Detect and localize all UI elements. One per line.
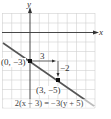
run-arrow [30,61,58,75]
rise-label: −2 [60,64,70,73]
y-axis-label: y [27,0,31,9]
point-label-0-neg3: (0, −3) [1,58,26,67]
run-label: 3 [40,52,45,61]
equation-label: 2(x − 3) = −3(y + 5) [4,99,94,108]
point-3-neg5 [56,78,60,82]
point-label-3-neg5: (3, −5) [36,86,61,95]
rise-arrow-head-icon [57,73,60,77]
point-0-neg3 [28,59,32,63]
x-axis-label: x [99,28,103,37]
run-arrow-head-icon [52,60,56,63]
